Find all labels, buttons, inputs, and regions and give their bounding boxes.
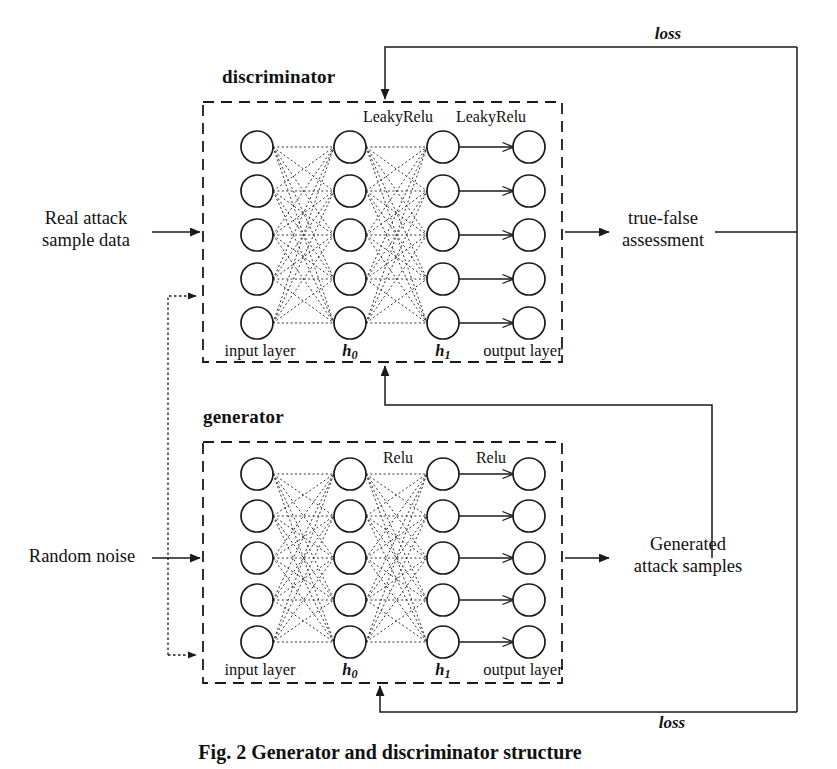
label-random-noise: Random noise [0,546,167,568]
discriminator-edges-h1-to-output [459,147,513,323]
label-true-false-assessment: true-falseassessment [588,208,738,252]
generator-layer-output: output layer [483,660,562,679]
discriminator-edges-h0-to-h1 [366,147,427,323]
generator-activation-h1: Relu [476,449,506,468]
discriminator-layer-output: output layer [483,341,562,360]
generator-layer-input: input layer [224,660,295,679]
label-real-attack-sample-data: Real attacksample data [6,208,166,252]
discriminator-layer-h0: h0 [342,341,357,362]
discriminator-activation-h0: LeakyRelu [363,108,433,127]
label-loss-bottom: loss [659,713,685,733]
discriminator-edges-input-to-h0 [273,147,334,323]
generator-edges-h1-to-output [459,474,513,642]
generator-edges-h0-to-h1 [366,474,427,642]
discriminator-layer-input: input layer [224,341,295,360]
edge-dotted-to-discriminator-input [168,296,196,655]
discriminator-activation-h1: LeakyRelu [456,108,526,127]
generator-layer-h1: h1 [435,660,450,681]
figure-root: discriminator generator LeakyRelu LeakyR… [0,0,837,769]
discriminator-title: discriminator [222,66,335,88]
label-loss-top: loss [655,24,681,44]
discriminator-layer-h1: h1 [435,341,450,362]
edge-loss-to-generator [380,686,797,712]
generator-activation-h0: Relu [383,449,413,468]
figure-caption: Fig. 2 Generator and discriminator struc… [198,741,581,764]
generator-title: generator [203,406,284,428]
generator-edges-input-to-h0 [273,474,334,642]
generator-layer-h0: h0 [342,660,357,681]
edge-loss-to-discriminator [385,47,797,99]
label-generated-attack-samples: Generatedattack samples [596,534,781,578]
